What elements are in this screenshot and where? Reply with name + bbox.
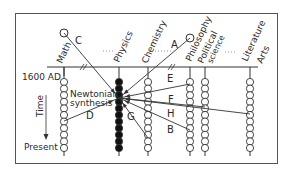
label-physics: Physics [112,29,135,64]
bead-column-philosophy [186,67,193,156]
start-time-label: 1600 AD [22,72,61,82]
arrow-label-d: D [86,110,94,121]
arrow-label-c: C [75,35,82,46]
label-math: Math [55,40,74,65]
arrow-h [119,98,250,114]
newtonian-synthesis-diagram: Math Physics Chemistry Philosophy Politi… [0,0,288,174]
arrow-label-e: E [167,73,173,84]
bead-column-political-science [201,67,208,156]
label-arts: Arts [255,44,272,65]
bead-column-physics [115,67,122,156]
end-time-label: Present [24,142,58,152]
arrow-label-h: H [167,108,175,119]
arrow-label-f: F [168,94,174,105]
time-axis-label: Time [35,95,45,118]
arrow-label-g: G [127,111,135,122]
influence-arrows [64,33,250,138]
label-chemistry: Chemistry [140,18,169,65]
synthesis-label: synthesis [70,98,113,108]
arrow-label-a: A [171,39,178,50]
bead-column-literature-arts [246,67,253,156]
bead-column-math [60,67,67,156]
time-arrowhead [44,134,49,140]
arrow-label-b: B [167,124,174,135]
